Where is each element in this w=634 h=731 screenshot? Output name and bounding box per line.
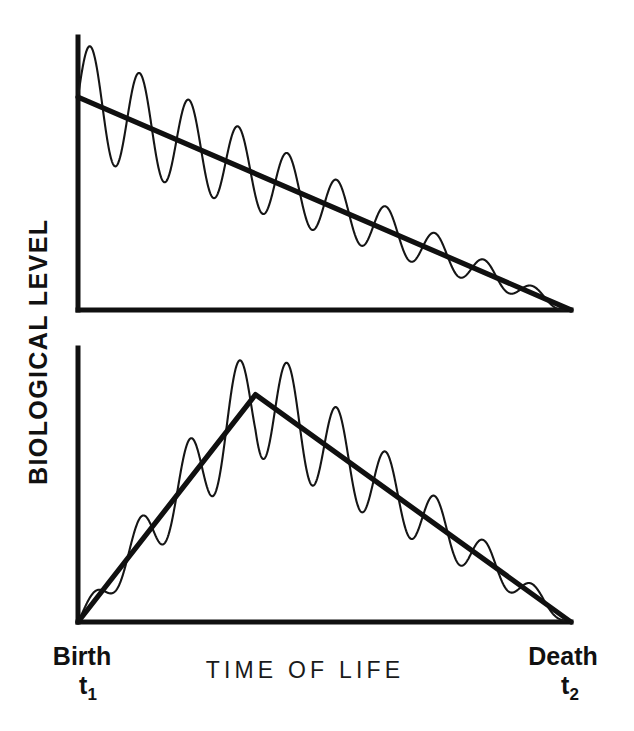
x-axis-label: TIME OF LIFE [206, 657, 405, 683]
death-time-symbol-subscript: 2 [569, 685, 578, 704]
death-label: Death [528, 642, 597, 670]
birth-label: Birth [53, 642, 111, 670]
y-axis-label: BIOLOGICAL LEVEL [24, 219, 52, 485]
birth-time-symbol-subscript: 1 [87, 685, 96, 704]
biological-level-figure: BIOLOGICAL LEVEL TIME OF LIFE Birth t1 D… [0, 0, 634, 731]
figure-root: BIOLOGICAL LEVEL TIME OF LIFE Birth t1 D… [0, 0, 634, 731]
